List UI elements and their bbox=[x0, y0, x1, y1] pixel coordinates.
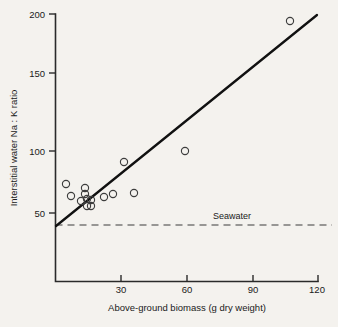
data-points-group bbox=[62, 17, 293, 209]
data-point bbox=[109, 190, 116, 197]
data-point bbox=[100, 193, 107, 200]
y-tick-label-50: 50 bbox=[34, 208, 45, 219]
y-tick-label-200: 200 bbox=[29, 9, 45, 20]
data-point bbox=[120, 158, 127, 165]
y-axis-tick-labels: 200 150 100 50 bbox=[29, 9, 45, 219]
x-axis-tick-labels: 30 60 90 120 bbox=[116, 284, 325, 295]
figure-container: 200 150 100 50 30 60 90 120 Seawater bbox=[0, 0, 338, 327]
x-tick-label-90: 90 bbox=[248, 284, 259, 295]
data-point bbox=[286, 17, 293, 24]
x-tick-label-60: 60 bbox=[182, 284, 193, 295]
regression-fit-line bbox=[56, 15, 317, 226]
data-point bbox=[62, 180, 69, 187]
x-tick-label-120: 120 bbox=[309, 284, 325, 295]
y-tick-label-150: 150 bbox=[29, 68, 45, 79]
y-tick-label-100: 100 bbox=[29, 146, 45, 157]
scatter-plot: 200 150 100 50 30 60 90 120 Seawater bbox=[0, 0, 338, 327]
y-axis-title: Interstitial water Na : K ratio bbox=[8, 90, 19, 207]
x-axis-title: Above-ground biomass (g dry weight) bbox=[108, 302, 266, 313]
seawater-label: Seawater bbox=[213, 211, 251, 221]
data-point bbox=[181, 147, 188, 154]
x-tick-label-30: 30 bbox=[116, 284, 127, 295]
data-point bbox=[67, 192, 74, 199]
y-axis-ticks bbox=[49, 14, 56, 213]
x-axis-ticks bbox=[121, 275, 318, 282]
data-point bbox=[130, 189, 137, 196]
